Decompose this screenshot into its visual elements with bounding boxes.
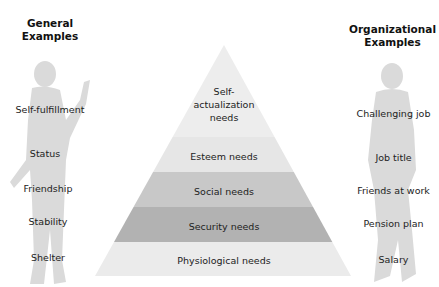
needs-pyramid: Self- actualization needs Esteem needs S…	[0, 0, 439, 287]
pyramid-label-esteem: Esteem needs	[190, 151, 257, 162]
pyramid-label-self-line1: Self-	[214, 86, 235, 97]
pyramid-label-self-line2: actualization	[194, 99, 255, 110]
pyramid-label-social: Social needs	[194, 186, 254, 197]
pyramid-label-security: Security needs	[189, 221, 260, 232]
pyramid-label-physiological: Physiological needs	[177, 255, 270, 266]
pyramid-label-self-line3: needs	[210, 112, 239, 123]
